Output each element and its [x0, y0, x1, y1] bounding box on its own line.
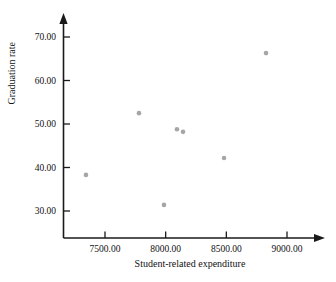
scatter-plot-figure: 30.0040.0050.0060.0070.00 7500.008000.00… — [0, 0, 336, 282]
x-axis-arrow-head — [314, 234, 325, 242]
y-axis-arrow-head — [59, 13, 67, 24]
data-point — [264, 51, 269, 56]
x-tick-label: 8500.00 — [211, 244, 242, 254]
data-point — [84, 173, 89, 178]
x-tick-label: 9000.00 — [272, 244, 303, 254]
x-tick-label: 7500.00 — [90, 244, 121, 254]
data-point — [222, 156, 227, 161]
y-tick-label: 30.00 — [0, 206, 56, 216]
y-axis-title-text: Graduation rate — [6, 83, 17, 105]
data-point — [175, 127, 180, 132]
x-axis-title: Student-related expenditure — [135, 258, 246, 269]
axes-group — [59, 13, 325, 242]
x-tick-label: 8000.00 — [150, 244, 181, 254]
data-points-group — [84, 51, 269, 207]
data-point — [137, 111, 142, 116]
plot-area: 30.0040.0050.0060.0070.00 7500.008000.00… — [0, 0, 336, 282]
y-tick-label: 70.00 — [0, 32, 56, 42]
y-axis-title: Graduation rate — [0, 88, 22, 178]
data-point — [162, 203, 167, 208]
data-point — [181, 130, 186, 135]
chart-canvas — [0, 0, 336, 282]
tick-marks-group — [64, 37, 288, 238]
